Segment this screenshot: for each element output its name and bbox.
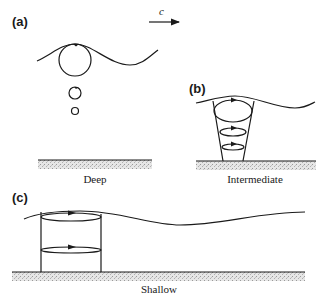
wave-orbit-diagram: c (a) Deep (b) Intermediate (c) [0, 0, 323, 297]
seabed-c [12, 272, 305, 281]
depth-label-shallow: Shallow [141, 283, 177, 295]
seabed-b [196, 161, 316, 170]
orbit-ellipse-1 [214, 100, 252, 122]
orbit-circle-small [72, 108, 79, 115]
depth-label-deep: Deep [83, 173, 107, 185]
panel-deep: (a) Deep [12, 14, 158, 185]
orbit-circle-large [59, 44, 91, 76]
orbit-direction-icon [231, 142, 237, 147]
orbit-direction-icon [73, 44, 79, 47]
orbit-direction-icon [231, 126, 237, 131]
wave-direction: c [149, 5, 179, 22]
orbit-direction-icon [68, 245, 76, 250]
panel-label-c: (c) [12, 190, 28, 205]
panel-label-b: (b) [189, 81, 206, 96]
depth-label-intermediate: Intermediate [227, 173, 283, 185]
wave-surface-a [37, 44, 158, 65]
panel-label-a: (a) [12, 14, 28, 29]
wave-speed-label: c [159, 5, 164, 17]
seabed-a [38, 160, 152, 169]
orbit-direction-icon [231, 98, 237, 103]
panel-intermediate: (b) Intermediate [189, 81, 316, 185]
panel-shallow: (c) Shallow [12, 190, 305, 295]
orbit-circle-medium [69, 87, 81, 99]
